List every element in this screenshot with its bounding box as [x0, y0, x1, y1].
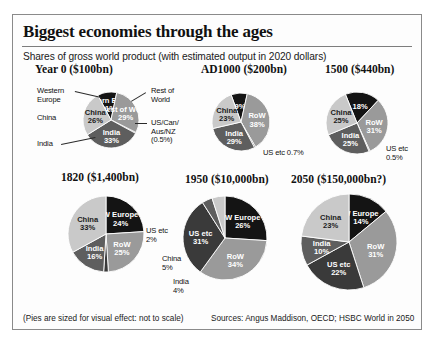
chart-title-year-0: Year 0 ($100bn)	[35, 63, 113, 75]
slice-label-rest-of-world: 25%	[114, 248, 129, 257]
footnote-scale: (Pies are sized for visual effect: not t…	[23, 314, 184, 323]
slice-label-rest-of-world: 31%	[367, 126, 382, 135]
infographic-panel: Biggest economies through the ages Share…	[12, 14, 422, 330]
callout-label: US etc 0.7%	[263, 149, 304, 158]
page-subtitle: Shares of gross world product (with esti…	[23, 51, 421, 62]
callout-label: US etc2%	[146, 227, 168, 244]
slice-label-us-etc: 22%	[331, 268, 346, 277]
callout-leader-line	[135, 123, 147, 124]
slice-label-rest-of-world: 38%	[249, 120, 264, 129]
slice-label-western-europe: 18%	[353, 102, 368, 111]
slice-label-china: 23%	[219, 114, 234, 123]
chart-title-1950: 1950 ($10,000bn)	[185, 173, 269, 185]
pie-chart-2050: W Europe14%RoW31%US etc22%India10%China2…	[299, 192, 399, 292]
callout-label: US/Can/Aus/NZ(0.5%)	[151, 119, 179, 145]
slice-label-china: 25%	[333, 116, 348, 125]
slice-label-india: 25%	[343, 139, 358, 148]
chart-title-ad1000: AD1000 ($200bn)	[201, 63, 287, 75]
slice-label-western-europe: 24%	[113, 219, 128, 228]
slice-label-india: 10%	[314, 247, 329, 256]
callout-label: Rest ofWorld	[151, 87, 174, 104]
callout-label: US etc0.5%	[386, 145, 408, 162]
pie-chart-1500: 18%RoW31%India25%China25%	[324, 90, 390, 156]
callout-label: WesternEurope	[37, 87, 64, 104]
slice-label-rest-of-world: 31%	[368, 250, 383, 259]
title-divider	[22, 46, 412, 47]
pie-chart-1950: W Europe26%RoW34%US etc31%	[181, 194, 269, 282]
slice-label-rest-of-world: 29%	[118, 113, 133, 122]
slice-label-western-europe: 14%	[353, 217, 368, 226]
callout-label: India4%	[173, 278, 189, 295]
chart-title-1500: 1500 ($440bn)	[325, 63, 394, 75]
slice-label-china: 26%	[88, 116, 103, 125]
page-title: Biggest economies through the ages	[23, 22, 421, 42]
slice-label-china: 33%	[80, 223, 95, 232]
pie-chart-ad1000: 9%RoW38%India29%China23%	[210, 91, 272, 153]
slice-label-rest-of-world: 34%	[228, 260, 243, 269]
slice-label-india: 33%	[104, 136, 119, 145]
slice-label-india: 16%	[87, 252, 102, 261]
footnote-sources: Sources: Angus Maddison, OECD; HSBC Worl…	[211, 314, 414, 323]
callout-label: India	[37, 140, 53, 149]
callout-label: China	[37, 114, 56, 123]
slice-label-china: 23%	[323, 221, 338, 230]
callout-label: China5%	[162, 255, 181, 272]
chart-title-1820: 1820 ($1,400bn)	[61, 171, 139, 183]
pie-chart-1820: W Europe24%RoW25%India16%China33%	[66, 194, 146, 274]
slice-label-us-etc: 31%	[193, 237, 208, 246]
slice-label-india: 29%	[227, 137, 242, 146]
slice-label-western-europe: 26%	[235, 221, 250, 230]
chart-title-2050: 2050 ($150,000bn?)	[291, 173, 386, 185]
